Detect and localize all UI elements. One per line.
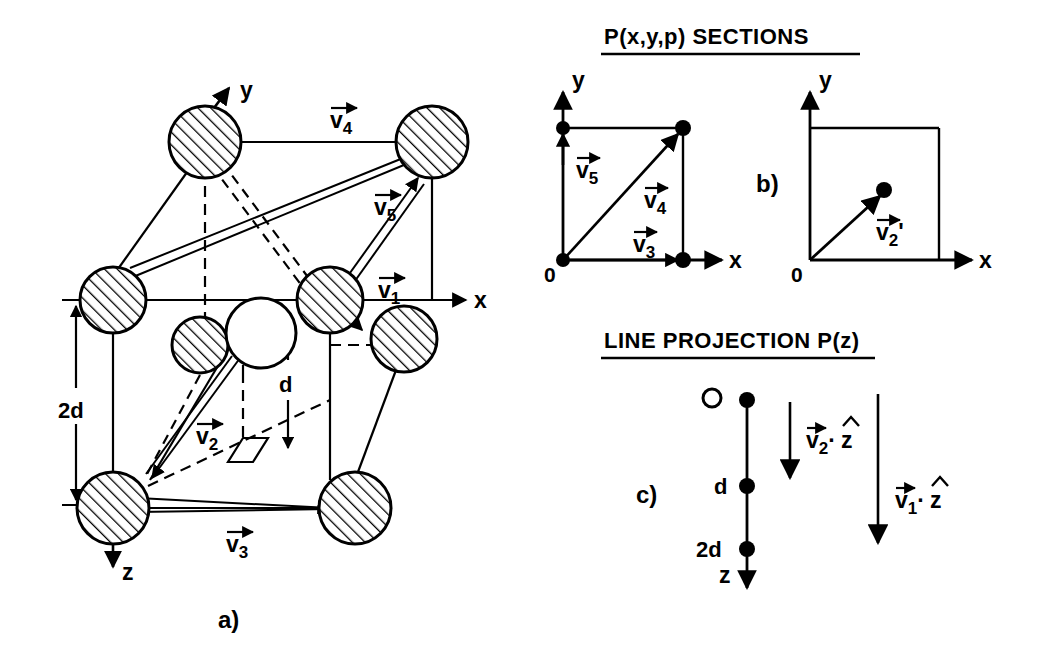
- c-tick-2d-label: 2d: [696, 537, 722, 562]
- b-left-v4-label: v4: [644, 187, 667, 218]
- b-left-y-label: y: [572, 67, 585, 93]
- b-right-y-label: y: [819, 67, 832, 93]
- vector-v2-label: v2: [196, 423, 218, 454]
- vector-v1-label: v1: [378, 277, 400, 308]
- atoms-group: [77, 106, 468, 544]
- b-left-origin-label: 0: [544, 263, 556, 286]
- panel-a-group: y x z 2d d v4: [58, 77, 487, 633]
- panel-a-label: a): [218, 606, 239, 633]
- panel-c-group: LINE PROJECTION P(z) z d 2d v2·z v1·z c: [601, 328, 948, 588]
- right-angle-marker: [228, 438, 268, 462]
- vector-v4-label: v4: [330, 107, 353, 138]
- panel-c-title: LINE PROJECTION P(z): [604, 328, 860, 353]
- b-left-x-label: x: [729, 247, 742, 273]
- axis-x-label: x: [474, 287, 487, 313]
- axis-z-label: z: [122, 559, 134, 585]
- peak-dot: [675, 120, 691, 136]
- peak-dot: [739, 478, 755, 494]
- c-z-axis-label: z: [719, 562, 731, 588]
- peak-dot: [876, 182, 892, 198]
- b-right-origin-label: 0: [791, 263, 803, 286]
- panel-b-right-section: y x 0 v2': [791, 67, 992, 286]
- origin-open-circle-icon: [703, 389, 721, 407]
- vector-v2-arrow: [146, 356, 240, 478]
- vector-v3-arrow: [138, 498, 330, 512]
- peak-dot: [675, 252, 691, 268]
- atom-hatched: [319, 472, 391, 544]
- c-v1-zhat-label: v1·z: [895, 487, 941, 518]
- c-v2-zhat-caret-icon: [843, 417, 859, 426]
- axis-y-label: y: [240, 77, 253, 103]
- panel-c-label: c): [636, 481, 657, 508]
- c-v2-zhat-label: v2·z: [806, 427, 852, 458]
- figure-root: y x z 2d d v4: [0, 0, 1044, 656]
- vector-v2-dashed-companion: [146, 360, 208, 476]
- c-v1-zhat-caret-icon: [932, 477, 948, 486]
- dim-d-label: d: [279, 372, 292, 397]
- b-left-v3-label: v3: [633, 231, 655, 262]
- panel-b-left-section: y x 0 v5 v4 v3: [544, 67, 742, 286]
- panel-b-title: P(x,y,p) SECTIONS: [604, 24, 809, 49]
- b-right-square-outline: [810, 128, 939, 260]
- atom-hatched: [77, 472, 149, 544]
- dim-2d-label: 2d: [58, 398, 84, 423]
- atom-hatched: [169, 106, 241, 178]
- b-right-v2p-label: v2': [876, 219, 904, 250]
- b-right-v2p-arrow: [810, 196, 880, 260]
- atom-hatched: [371, 306, 437, 372]
- atom-open: [226, 298, 296, 368]
- atom-hatched: [297, 267, 363, 333]
- peak-dot: [556, 253, 570, 267]
- atom-hatched: [396, 106, 468, 178]
- panel-b-label: b): [756, 170, 779, 197]
- atom-hatched: [80, 267, 146, 333]
- b-left-v5-label: v5: [576, 157, 598, 188]
- b-right-x-label: x: [979, 247, 992, 273]
- vector-v5-label: v5: [374, 194, 396, 225]
- peak-dot: [556, 121, 570, 135]
- atom-hatched: [172, 317, 228, 373]
- panel-b-group: P(x,y,p) SECTIONS y x 0 v5 v4: [544, 24, 992, 286]
- peak-dot: [739, 541, 755, 557]
- c-tick-d-label: d: [714, 474, 727, 499]
- vector-v3-label: v3: [226, 531, 248, 562]
- b-left-v4-arrow: [563, 134, 678, 260]
- diagram-canvas: y x z 2d d v4: [0, 0, 1044, 656]
- peak-dot: [739, 392, 755, 408]
